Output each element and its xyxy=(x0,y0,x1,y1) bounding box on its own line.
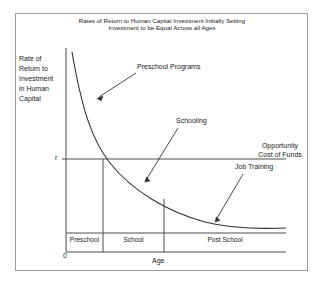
annotation-opportunity-cost-of-funds: Opportunity Cost of Funds xyxy=(251,141,309,159)
age-band-label-school: School xyxy=(103,236,164,243)
y-axis-label: Rate of Return to Investment in Human Ca… xyxy=(19,54,65,104)
chart-figure: Rates of Return to Human Capital Investm… xyxy=(0,0,323,284)
age-band-label-preschool: Preschool xyxy=(66,236,103,243)
chart-title: Rates of Return to Human Capital Investm… xyxy=(46,17,278,32)
x-axis-label: Age xyxy=(152,257,164,265)
y-axis-tick-r: r xyxy=(55,154,57,162)
annotation-preschool-programs: Preschool Programs xyxy=(137,63,200,71)
age-band-label-post-school: Post School xyxy=(164,236,286,243)
origin-label: 0 xyxy=(63,252,67,260)
annotation-schooling: Schooling xyxy=(176,117,207,125)
annotation-job-training: Job Training xyxy=(235,163,273,171)
